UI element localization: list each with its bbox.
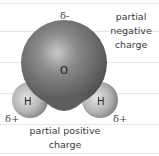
oxygen-partial-charge: δ- xyxy=(60,11,69,21)
partial-negative-label-3: charge xyxy=(106,39,156,50)
partial-negative-label-2: negative xyxy=(104,25,158,36)
hydrogen-left-partial-charge: δ+ xyxy=(5,114,19,124)
oxygen-symbol: O xyxy=(60,65,68,76)
oxygen-lower-lobe xyxy=(40,96,88,111)
oxygen-atom xyxy=(21,20,107,106)
hydrogen-left-symbol: H xyxy=(24,96,32,107)
hydrogen-right-symbol: H xyxy=(97,96,105,107)
partial-positive-label-2: charge xyxy=(40,139,90,150)
hydrogen-right-partial-charge: δ+ xyxy=(113,114,127,124)
partial-negative-label-1: partial xyxy=(106,11,156,22)
partial-positive-label-1: partial positive xyxy=(22,125,108,136)
